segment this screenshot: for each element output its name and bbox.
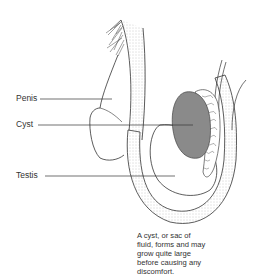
penis-outline (90, 55, 124, 160)
caption-line: A cyst, or sac of (137, 231, 247, 240)
testis-label: Testis (16, 171, 38, 180)
cyst-label: Cyst (16, 120, 33, 129)
caption-line: before causing any (137, 258, 247, 267)
abdominal-wall (121, 20, 145, 140)
caption: A cyst, or sac of fluid, forms and may g… (137, 231, 247, 276)
caption-line: fluid, forms and may (137, 240, 247, 249)
pubic-hair-illustration (106, 20, 124, 56)
penis-label: Penis (16, 94, 37, 103)
caption-line: discomfort. (137, 267, 247, 276)
caption-line: grow quite large (137, 249, 247, 258)
